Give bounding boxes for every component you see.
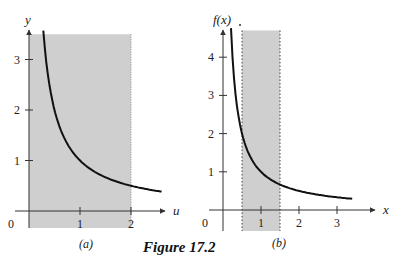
x-axis-label: x [382, 202, 389, 217]
origin-label: 0 [8, 217, 14, 231]
y-tick-label: 3 [14, 53, 20, 67]
figure-17-2: 121230uy(a) 12312340xf(x)(b) [0, 0, 397, 268]
shaded-region [29, 34, 131, 228]
shaded-region [242, 30, 280, 231]
x-tick-label: 1 [258, 216, 264, 230]
origin-label: 0 [202, 216, 208, 230]
y-tick-label: 4 [208, 50, 214, 64]
y-tick-label: 1 [208, 165, 214, 179]
y-tick-label: 1 [14, 154, 20, 168]
panel-label: (a) [79, 237, 93, 251]
y-tick-label: 2 [208, 127, 214, 141]
x-tick-label: 3 [334, 216, 340, 230]
y-tick-label: 3 [208, 88, 214, 102]
x-tick-label: 2 [128, 217, 134, 231]
panel-a-plot: 121230uy(a) [8, 12, 180, 251]
y-axis-label: f(x) [213, 12, 231, 27]
x-axis-label: u [173, 203, 180, 218]
panel-label: (b) [272, 236, 286, 250]
y-tick-label: 2 [14, 103, 20, 117]
stray-dot [239, 24, 241, 26]
figure-caption: Figure 17.2 [143, 239, 216, 256]
y-axis-label: y [23, 12, 31, 27]
x-tick-label: 1 [77, 217, 83, 231]
x-tick-label: 2 [296, 216, 302, 230]
panel-b-plot: 12312340xf(x)(b) [202, 12, 389, 250]
